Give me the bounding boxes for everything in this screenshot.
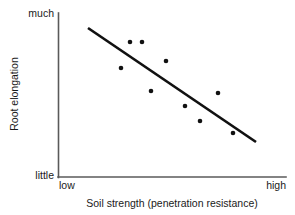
x-axis-tick-label-low: low: [59, 180, 75, 191]
y-axis-title: Root elongation: [8, 32, 20, 156]
y-axis-tick-label-much: much: [28, 8, 54, 19]
data-point: [216, 91, 221, 96]
y-axis-tick-label-little: little: [35, 170, 54, 181]
data-point: [164, 59, 169, 64]
data-point: [198, 119, 203, 124]
data-point: [140, 40, 145, 45]
plot-area: [0, 0, 295, 215]
data-point: [231, 131, 236, 136]
scatter-chart-figure: much little low high Soil strength (pene…: [0, 0, 295, 215]
data-point: [183, 104, 188, 109]
x-axis-title: Soil strength (penetration resistance): [58, 197, 286, 209]
data-point: [149, 89, 154, 94]
data-point: [128, 40, 133, 45]
data-point: [119, 66, 124, 71]
x-axis-tick-label-high: high: [266, 180, 286, 191]
trend-line: [88, 28, 256, 142]
